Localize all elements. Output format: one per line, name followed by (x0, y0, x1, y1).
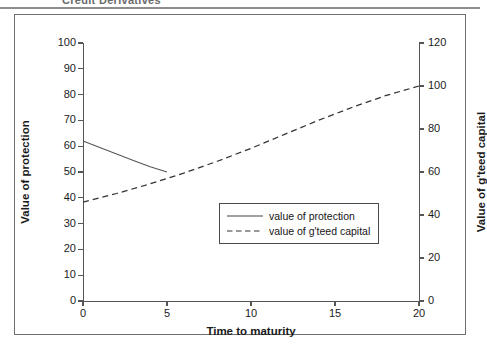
y-axis-left-tick-label: 100 (36, 36, 76, 48)
y-axis-right-tick (419, 300, 424, 301)
x-axis-tick (418, 301, 419, 306)
y-axis-right-tick (419, 85, 424, 86)
y-axis-left-tick-label: 70 (36, 113, 76, 125)
y-axis-left-tick-label: 50 (36, 165, 76, 177)
legend-swatch-dashed (226, 226, 264, 236)
x-axis-tick-label: 20 (399, 307, 439, 319)
x-axis-tick-label: 0 (63, 307, 103, 319)
y-axis-right-tick (419, 42, 424, 43)
y-axis-left-tick-label: 60 (36, 139, 76, 151)
y-axis-left-tick-label: 40 (36, 191, 76, 203)
y-axis-left-tick-label: 10 (36, 268, 76, 280)
legend-item: value of protection (226, 208, 370, 223)
legend-swatch-solid (226, 211, 264, 221)
y-axis-right-tick-label: 120 (428, 36, 468, 48)
y-axis-left-tick-label: 20 (36, 242, 76, 254)
y-axis-right-tick-label: 0 (428, 294, 468, 306)
y-axis-right-tick (419, 171, 424, 172)
y-axis-left-tick-label: 90 (36, 62, 76, 74)
y-axis-right-tick (419, 214, 424, 215)
x-axis-tick (82, 301, 83, 306)
x-axis-title: Time to maturity (206, 325, 295, 337)
y-axis-right-tick (419, 128, 424, 129)
legend-item: value of g'teed capital (226, 223, 370, 238)
y-axis-right-tick (419, 257, 424, 258)
y-axis-right-tick-label: 60 (428, 165, 468, 177)
legend-label: value of g'teed capital (269, 225, 370, 237)
y-axis-right-tick-label: 100 (428, 79, 468, 91)
chart-series-svg (83, 43, 419, 301)
y-axis-left-tick-label: 30 (36, 217, 76, 229)
y-axis-right-tick-label: 40 (428, 208, 468, 220)
chart-series-line (83, 86, 419, 202)
chart-plot-area: 0102030405060708090100 020406080100120 0… (83, 43, 419, 301)
y-axis-right-title: Value of g'teed capital (475, 112, 487, 232)
chart-legend: value of protection value of g'teed capi… (219, 203, 379, 244)
y-axis-right-tick-label: 80 (428, 122, 468, 134)
header-divider (0, 7, 480, 9)
x-axis-tick (334, 301, 335, 306)
chart-series-line (83, 141, 167, 172)
x-axis-tick-label: 10 (231, 307, 271, 319)
page-header-title: Credit Derivatives (62, 0, 161, 6)
y-axis-left-tick-label: 80 (36, 88, 76, 100)
y-axis-right-tick-label: 20 (428, 251, 468, 263)
legend-label: value of protection (269, 210, 355, 222)
y-axis-left-tick-label: 0 (36, 294, 76, 306)
x-axis-tick-label: 5 (147, 307, 187, 319)
figure-frame: 0102030405060708090100 020406080100120 0… (14, 14, 466, 335)
x-axis-tick-label: 15 (315, 307, 355, 319)
x-axis-tick (166, 301, 167, 306)
x-axis-tick (250, 301, 251, 306)
y-axis-left-title: Value of protection (19, 120, 31, 224)
